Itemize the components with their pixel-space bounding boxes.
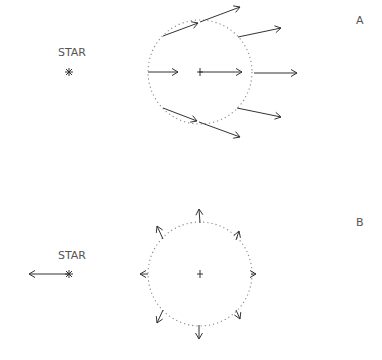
arrow xyxy=(199,122,240,138)
arrow xyxy=(163,22,198,36)
arrow xyxy=(237,108,281,119)
star-label-b: STAR xyxy=(58,249,86,262)
panel-label-b: B xyxy=(356,216,364,229)
arrow xyxy=(196,325,203,339)
tidal-force-diagram: A STAR B STAR xyxy=(0,0,382,360)
arrow xyxy=(199,69,242,76)
arrow xyxy=(234,231,241,240)
panel-b: B STAR xyxy=(29,209,364,339)
star-icon xyxy=(65,68,73,76)
force-arrows-a xyxy=(148,6,297,138)
arrow xyxy=(238,26,281,37)
arrow xyxy=(156,310,163,323)
panel-a: A STAR xyxy=(58,6,364,138)
arrow xyxy=(196,209,203,223)
star-label-a: STAR xyxy=(58,46,86,59)
arrow xyxy=(29,271,69,278)
center-plus-marker xyxy=(197,270,203,278)
arrow xyxy=(254,70,297,77)
star-arrow xyxy=(29,271,69,278)
arrow xyxy=(163,108,197,122)
arrow xyxy=(140,271,148,278)
arrow xyxy=(200,6,240,22)
arrow xyxy=(250,271,256,278)
arrow xyxy=(156,226,163,239)
arrow xyxy=(234,310,240,319)
arrow xyxy=(148,69,178,76)
panel-label-a: A xyxy=(356,14,364,27)
